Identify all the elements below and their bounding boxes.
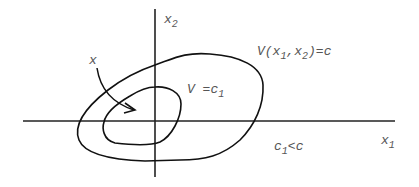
inequality-label: c1<c (274, 139, 304, 157)
inner-curve-label: V =c1 (187, 82, 224, 100)
outer-level-curve (77, 54, 263, 161)
x2-axis-label: x2 (163, 12, 178, 30)
level-set-diagram: x2 x1 x V(x1,x2)=c V =c1 c1<c (0, 0, 419, 187)
outer-curve-label: V(x1,x2)=c (257, 44, 332, 62)
x1-axis-label: x1 (380, 133, 395, 151)
trajectory-arrow (97, 68, 134, 110)
state-label: x (88, 53, 97, 68)
inner-level-curve (103, 87, 181, 145)
